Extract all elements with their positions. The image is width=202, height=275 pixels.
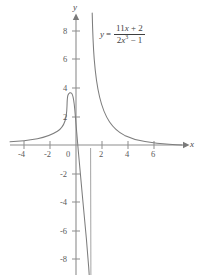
y-tick-label-6: 6: [63, 55, 67, 64]
y-tick-label--4: -4: [60, 198, 67, 207]
x-tick-label-0: 0: [66, 150, 70, 159]
x-tick-label-6: 6: [151, 150, 155, 159]
numerator-variable: x: [125, 23, 129, 33]
y-axis-arrow: [73, 14, 79, 21]
equation-annotation: y = 11x + 2 2x3 − 1: [100, 24, 145, 45]
x-tick-label-2: 2: [99, 150, 103, 159]
x-tick-label--2: -2: [44, 150, 51, 159]
x-axis-arrow: [183, 142, 190, 148]
y-tick-label--6: -6: [60, 227, 67, 236]
x-axis-label: x: [190, 140, 194, 149]
numerator-remainder: + 2: [131, 23, 143, 33]
y-tick-label--8: -8: [60, 255, 67, 264]
x-tick-label-4: 4: [125, 150, 129, 159]
y-tick-label-8: 8: [63, 27, 67, 36]
denominator-remainder: − 1: [130, 35, 142, 45]
equation-numerator: 11x + 2: [114, 24, 145, 34]
y-axis-label: y: [73, 3, 77, 12]
y-tick-label-4: 4: [63, 84, 67, 93]
equation-equals: =: [106, 30, 111, 39]
equation-fraction: 11x + 2 2x3 − 1: [114, 24, 145, 45]
denominator-exponent: 3: [125, 34, 128, 40]
equation-lhs: y: [100, 30, 104, 39]
curve-left-branch: [10, 93, 89, 275]
y-tick-label-2: 2: [63, 113, 67, 122]
function-graph-figure: -4 -2 0 2 4 6 8 6 4 2 -2 -4 -6 -8 x y y …: [0, 0, 202, 275]
numerator-coefficient: 11: [116, 23, 125, 33]
y-tick-label--2: -2: [60, 170, 67, 179]
x-tick-label--4: -4: [18, 150, 25, 159]
equation-denominator: 2x3 − 1: [115, 35, 145, 45]
